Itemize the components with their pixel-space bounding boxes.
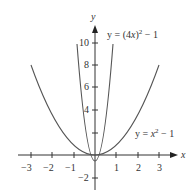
x-tick-label: 3: [157, 163, 162, 173]
y-tick-label: 6: [84, 82, 89, 92]
y-axis-label: y: [91, 12, 95, 22]
curve2-annotation: y = x2 − 1: [135, 128, 174, 139]
x-axis-arrow-icon: [170, 152, 178, 158]
x-tick-label: 2: [136, 163, 141, 173]
x-axis-label: x: [181, 150, 185, 160]
x-tick-label: −1: [65, 163, 76, 173]
y-axis-arrow-icon: [92, 25, 98, 33]
curve1-annotation: y = (4x)2 − 1: [107, 29, 158, 40]
y-tick-label: 10: [79, 38, 89, 48]
y-tick-label: −2: [78, 173, 89, 183]
x-tick-label: −3: [21, 163, 32, 173]
x-tick-label: −2: [43, 163, 54, 173]
y-tick-label: 4: [84, 105, 89, 115]
x-tick-label: 1: [114, 163, 119, 173]
y-tick-label: 8: [84, 60, 89, 70]
